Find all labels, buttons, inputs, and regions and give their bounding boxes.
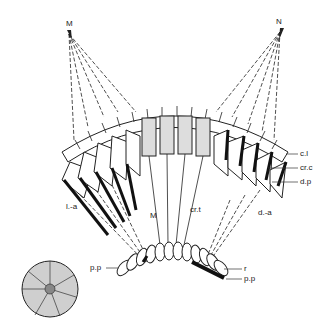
source-label-m: M xyxy=(66,20,73,28)
label-crystalline-tract: cr.t xyxy=(190,206,201,214)
label-dark-adapted: d.-a xyxy=(258,209,272,217)
source-label-n: N xyxy=(276,18,282,26)
label-proximal-pigment-right: p.p xyxy=(244,275,255,283)
label-rhabdom: r xyxy=(244,265,247,273)
label-distal-pigment: d.p xyxy=(300,178,311,186)
label-crystalline-cone: cr.c xyxy=(300,164,312,172)
eye-diagram xyxy=(0,0,323,319)
label-corneal-lens: c.l xyxy=(300,150,308,158)
label-proximal-pigment-left: p.p xyxy=(90,264,101,272)
arrow-m-icon xyxy=(67,30,72,40)
label-light-adapted: l.-a xyxy=(66,203,77,211)
label-focal-m: M xyxy=(150,212,157,220)
inset-cross-section xyxy=(22,261,78,317)
crystalline-tracts xyxy=(149,154,203,245)
